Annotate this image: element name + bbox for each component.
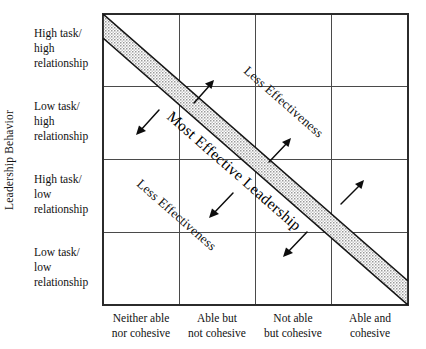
x-tick-0: Neither able nor cohesive [112, 312, 170, 339]
y-tick-0-line3: relationship [34, 57, 89, 70]
x-tick-2-line2: but cohesive [264, 327, 322, 339]
x-tick-1: Able but not cohesive [188, 312, 246, 339]
y-tick-1-line1: Low task/ [34, 100, 80, 112]
zone-label-lower-left-text: Less Effectiveness [134, 176, 219, 253]
x-tick-3: Able and cohesive [349, 312, 391, 339]
zone-label-lower-left: Less Effectiveness [134, 176, 219, 253]
y-tick-3-line3: relationship [34, 276, 89, 289]
y-tick-3-line2: low [34, 261, 52, 273]
arrow-down-left-2 [209, 193, 233, 218]
x-tick-1-line1: Able but [197, 312, 238, 324]
x-axis-tick-labels: Neither able nor cohesive Able but not c… [112, 312, 391, 339]
y-tick-2-line2: low [34, 188, 52, 200]
arrow-up-right-2 [269, 138, 291, 162]
arrow-up-right-3-shaft [341, 184, 361, 204]
x-tick-0-line2: nor cohesive [112, 327, 170, 339]
arrow-up-right-3 [341, 180, 364, 204]
y-tick-2-line3: relationship [34, 203, 89, 216]
arrow-down-left-1-shaft [140, 110, 159, 131]
arrow-up-right-1-head [205, 80, 214, 89]
y-tick-0-line1: High task/ [34, 27, 82, 40]
leadership-effectiveness-diagram: Leadership Behavior High task/ high rela… [0, 0, 426, 349]
y-axis-title: Leadership Behavior [3, 110, 16, 210]
arrow-up-right-2-head [282, 138, 291, 147]
arrow-down-left-3-shaft [287, 232, 307, 253]
y-tick-0-line2: high [34, 42, 55, 55]
y-tick-1: Low task/ high relationship [34, 100, 89, 143]
zone-label-upper-right-text: Less Effectiveness [241, 63, 326, 140]
y-tick-0: High task/ high relationship [34, 27, 89, 70]
y-tick-2: High task/ low relationship [34, 173, 89, 216]
y-tick-1-line3: relationship [34, 130, 89, 143]
y-axis-tick-labels: High task/ high relationship Low task/ h… [34, 27, 89, 289]
arrow-down-left-1 [136, 110, 159, 135]
x-tick-1-line2: not cohesive [188, 327, 246, 339]
x-tick-3-line1: Able and [349, 312, 391, 324]
y-tick-1-line2: high [34, 115, 55, 128]
diagram-root: Leadership Behavior High task/ high rela… [0, 0, 426, 349]
y-tick-3: Low task/ low relationship [34, 246, 89, 289]
x-tick-2-line1: Not able [273, 312, 312, 324]
x-tick-2: Not able but cohesive [264, 312, 322, 339]
x-tick-3-line2: cohesive [350, 327, 390, 339]
zone-label-upper-right: Less Effectiveness [241, 63, 326, 140]
x-tick-0-line1: Neither able [113, 312, 170, 324]
y-tick-3-line1: Low task/ [34, 246, 80, 258]
y-axis-title-text: Leadership Behavior [3, 110, 16, 210]
y-tick-2-line1: High task/ [34, 173, 82, 186]
arrow-up-right-1 [194, 80, 214, 103]
arrow-down-left-2-shaft [213, 193, 233, 214]
arrow-down-left-3 [283, 232, 307, 257]
